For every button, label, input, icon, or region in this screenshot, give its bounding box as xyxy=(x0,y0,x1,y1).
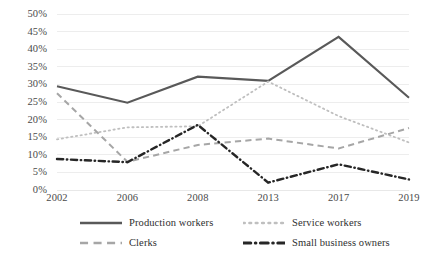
y-axis-tick-label: 45% xyxy=(27,26,47,37)
legend-swatch-service-workers xyxy=(243,217,285,229)
y-axis-tick-label: 0% xyxy=(33,185,47,196)
legend-label-small-business-owners: Small business owners xyxy=(292,238,390,249)
x-axis-tick-label: 2002 xyxy=(46,193,67,204)
plot-area xyxy=(57,14,409,190)
legend-item-service-workers[interactable]: Service workers xyxy=(243,216,361,230)
y-axis-tick-label: 50% xyxy=(27,9,47,20)
x-axis: 200220062008201320172019 xyxy=(57,193,409,209)
legend-label-clerks: Clerks xyxy=(129,238,157,249)
legend-swatch-clerks xyxy=(80,237,122,249)
y-axis: 0%5%10%15%20%25%30%35%40%45%50% xyxy=(0,14,52,190)
y-axis-tick-label: 5% xyxy=(33,167,47,178)
x-axis-tick-label: 2006 xyxy=(117,193,138,204)
y-axis-tick-label: 15% xyxy=(27,132,47,143)
legend-item-small-business-owners[interactable]: Small business owners xyxy=(243,236,390,250)
legend-item-production-workers[interactable]: Production workers xyxy=(80,216,213,230)
x-axis-tick-label: 2008 xyxy=(187,193,208,204)
legend-label-service-workers: Service workers xyxy=(292,218,361,229)
legend-swatch-small-business-owners xyxy=(243,237,285,249)
chart-legend: Production workers Service workers Clerk… xyxy=(57,216,407,256)
y-axis-tick-label: 40% xyxy=(27,44,47,55)
line-chart: 0%5%10%15%20%25%30%35%40%45%50% 20022006… xyxy=(0,0,423,259)
y-axis-tick-label: 30% xyxy=(27,79,47,90)
y-axis-tick-label: 10% xyxy=(27,150,47,161)
y-axis-tick-label: 20% xyxy=(27,114,47,125)
x-axis-tick-label: 2013 xyxy=(257,193,278,204)
x-axis-tick-label: 2017 xyxy=(328,193,349,204)
legend-item-clerks[interactable]: Clerks xyxy=(80,236,157,250)
series-lines xyxy=(57,14,409,190)
y-axis-tick-label: 25% xyxy=(27,97,47,108)
x-axis-tick-label: 2019 xyxy=(398,193,419,204)
legend-swatch-production-workers xyxy=(80,217,122,229)
y-axis-tick-label: 35% xyxy=(27,62,47,73)
legend-label-production-workers: Production workers xyxy=(129,218,213,229)
